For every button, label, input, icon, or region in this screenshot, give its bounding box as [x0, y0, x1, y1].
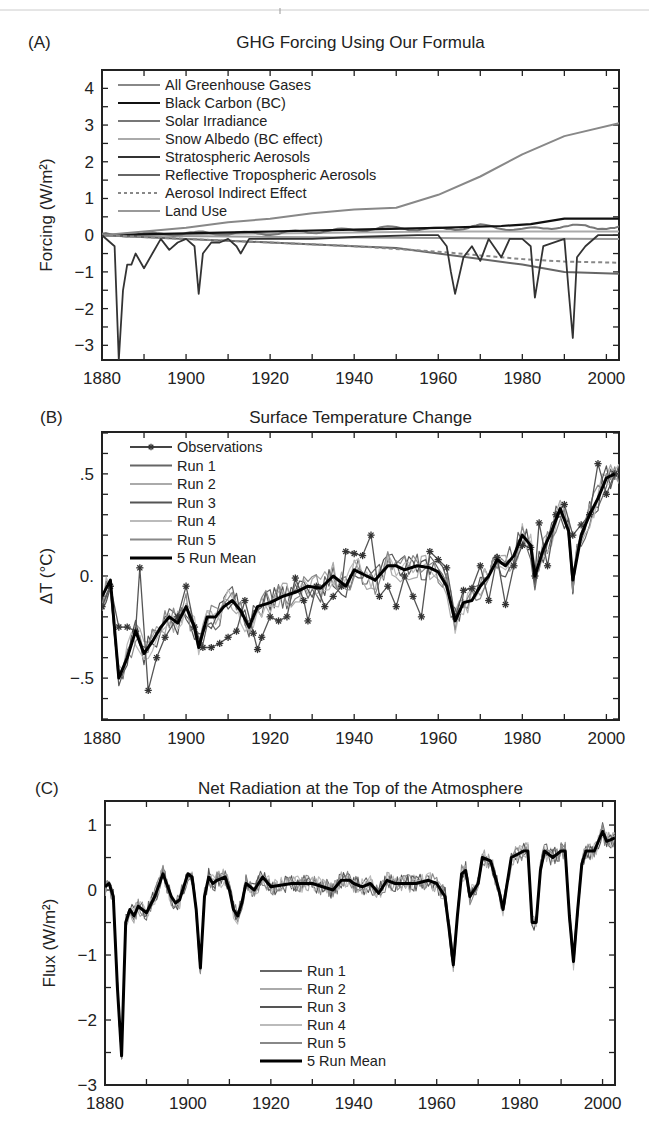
x-tick-label: 1940: [335, 369, 373, 388]
legend: ObservationsRun 1Run 2Run 3Run 4Run 55 R…: [130, 439, 262, 566]
legend-label: Run 3: [307, 999, 346, 1015]
x-tick-label: 1880: [83, 729, 121, 748]
y-tick-label: −1: [78, 946, 97, 965]
legend-label: Solar Irradiance: [165, 113, 267, 129]
y-tick-label: −2: [75, 300, 94, 319]
x-tick-label: 1920: [251, 729, 289, 748]
y-axis-label: Forcing (W/m²): [37, 158, 56, 271]
legend-label: Run 5: [307, 1035, 346, 1051]
panel-a: (A) GHG Forcing Using Our Formula 188019…: [0, 0, 649, 395]
x-tick-label: 1980: [501, 1094, 539, 1113]
x-tick-label: 1940: [335, 729, 373, 748]
legend-label: 5 Run Mean: [177, 550, 256, 566]
x-tick-label: 1960: [419, 729, 457, 748]
y-tick-label: .5: [80, 465, 94, 484]
legend-label: Snow Albedo (BC effect): [165, 131, 323, 147]
x-tick-label: 1940: [335, 1094, 373, 1113]
legend-label: All Greenhouse Gases: [165, 77, 311, 93]
x-tick-label: 1960: [418, 1094, 456, 1113]
x-tick-label: 1980: [503, 729, 541, 748]
legend-label: Run 4: [177, 513, 216, 529]
legend-label: Aerosol Indirect Effect: [165, 185, 307, 201]
plot-frame: [105, 801, 615, 1085]
legend-label: Stratospheric Aerosols: [165, 149, 310, 165]
y-tick-label: 0: [85, 226, 94, 245]
y-axis-label: Flux (W/m²): [40, 899, 59, 988]
x-tick-label: 1980: [503, 369, 541, 388]
y-tick-label: −.5: [70, 669, 94, 688]
chart-a: 188019001920194019601980200043210−1−2−3F…: [0, 0, 649, 395]
run-line: [105, 823, 615, 1059]
mean-line: [105, 832, 615, 1056]
x-tick-label: 2000: [587, 369, 625, 388]
legend-label: Run 2: [307, 981, 346, 997]
panel-c: (C) Net Radiation at the Top of the Atmo…: [0, 765, 649, 1139]
series-line: [102, 235, 619, 360]
legend-label: Observations: [177, 439, 262, 455]
x-tick-label: 1920: [252, 1094, 290, 1113]
x-tick-label: 1880: [83, 369, 121, 388]
legend: All Greenhouse GasesBlack Carbon (BC)Sol…: [118, 77, 376, 219]
legend: Run 1Run 2Run 3Run 4Run 55 Run Mean: [260, 963, 386, 1069]
run-line: [105, 825, 615, 1059]
legend-label: Run 4: [307, 1017, 346, 1033]
legend-label: Run 5: [177, 532, 216, 548]
y-tick-label: 2: [85, 153, 94, 172]
y-tick-label: −1: [75, 263, 94, 282]
run-line: [105, 832, 615, 1058]
y-axis-label: ΔT (°C): [37, 548, 56, 605]
legend-label: Run 2: [177, 476, 216, 492]
run-line: [105, 833, 615, 1059]
y-tick-label: 0.: [80, 567, 94, 586]
legend-label: Run 3: [177, 495, 216, 511]
y-tick-label: 1: [85, 189, 94, 208]
x-tick-label: 1880: [86, 1094, 124, 1113]
run-line: [105, 828, 615, 1059]
x-tick-label: 1900: [167, 729, 205, 748]
x-tick-label: 1900: [169, 1094, 207, 1113]
x-tick-label: 2000: [587, 729, 625, 748]
chart-b: 1880190019201940196019802000.50.−.5ΔT (°…: [0, 395, 649, 765]
legend-label: Reflective Tropospheric Aerosols: [165, 167, 376, 183]
y-tick-label: 4: [85, 79, 94, 98]
legend-label: Run 1: [307, 963, 346, 979]
x-tick-label: 2000: [584, 1094, 622, 1113]
x-tick-label: 1920: [251, 369, 289, 388]
legend-label: Black Carbon (BC): [165, 95, 286, 111]
y-tick-label: −3: [75, 336, 94, 355]
legend-label: Land Use: [165, 203, 227, 219]
x-tick-label: 1960: [419, 369, 457, 388]
series-group: [105, 823, 615, 1059]
x-tick-label: 1900: [167, 369, 205, 388]
y-tick-label: 0: [88, 881, 97, 900]
legend-label: Run 1: [177, 458, 216, 474]
y-tick-label: 3: [85, 116, 94, 135]
y-tick-label: −3: [78, 1076, 97, 1095]
y-tick-label: 1: [88, 816, 97, 835]
panel-b: (B) Surface Temperature Change 188019001…: [0, 395, 649, 765]
y-tick-label: −2: [78, 1011, 97, 1030]
legend-label: 5 Run Mean: [307, 1053, 386, 1069]
chart-c: 188019001920194019601980200010−1−2−3Flux…: [0, 765, 649, 1139]
